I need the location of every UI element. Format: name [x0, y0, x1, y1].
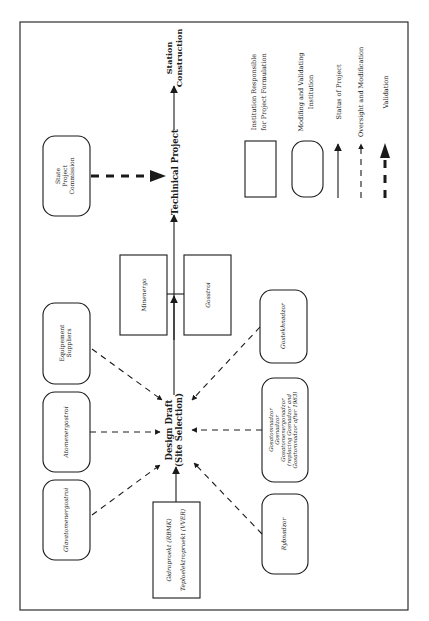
legend-rounded-symbol	[292, 141, 323, 197]
svg-text:Teploelektroproekt (VVER): Teploelektroproekt (VVER)	[179, 508, 187, 591]
svg-text:Rybnadzor: Rybnadzor	[280, 517, 288, 552]
technical-project-label: Techinical Project	[170, 129, 180, 215]
gidroproekt-teploelektroproekt-node	[153, 502, 200, 598]
svg-text:Construction: Construction	[174, 29, 184, 88]
svg-text:Modifing and Validating: Modifing and Validating	[297, 52, 305, 131]
legend-rect-symbol	[245, 141, 276, 197]
flowchart-diagram: Station Construction Techinical Project …	[0, 0, 429, 621]
svg-text:Gidroproekt (RBMK): Gidroproekt (RBMK)	[165, 518, 173, 582]
svg-text:State: State	[54, 168, 61, 185]
svg-text:Status of Project: Status of Project	[335, 64, 343, 119]
svg-text:Validation: Validation	[382, 76, 390, 110]
svg-text:Gosstroi: Gosstroi	[204, 282, 211, 307]
svg-text:Minenergo: Minenergo	[140, 278, 148, 313]
svg-text:Glavatomenergostroi: Glavatomenergostroi	[62, 488, 70, 552]
svg-text:Commission: Commission	[68, 157, 75, 194]
svg-text:Suppliers: Suppliers	[65, 329, 73, 358]
design-draft-label: Design Draft (Site Selection)	[164, 393, 184, 467]
svg-text:for Project Formulation: for Project Formulation	[260, 53, 268, 130]
svg-text:Station: Station	[164, 42, 174, 75]
svg-text:(Site Selection): (Site Selection)	[174, 393, 184, 467]
svg-text:Gostekhnadzor: Gostekhnadzor	[279, 302, 286, 349]
svg-text:Techinical Project: Techinical Project	[170, 129, 180, 215]
svg-text:Gosatomnadzor after 1983): Gosatomnadzor after 1983)	[292, 392, 299, 469]
svg-text:Oversight and Modification: Oversight and Modification	[357, 47, 365, 137]
svg-text:Atomenergostroi: Atomenergostroi	[62, 406, 70, 458]
svg-text:Institution: Institution	[307, 75, 315, 109]
svg-text:Institution Responsible: Institution Responsible	[250, 54, 258, 130]
svg-text:Design Draft: Design Draft	[164, 400, 174, 461]
